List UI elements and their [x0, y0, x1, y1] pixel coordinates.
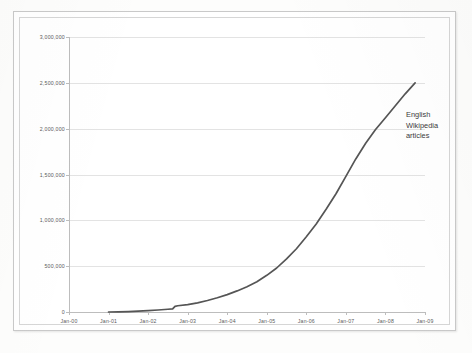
x-tick-label: Jan-02 [140, 318, 157, 324]
x-tick-label: Jan-04 [219, 318, 236, 324]
chart-inner-frame: 0500,0001,000,0001,500,0002,000,0002,500… [19, 17, 450, 325]
y-tick-label: 0 [62, 309, 65, 315]
x-tick-label: Jan-08 [377, 318, 394, 324]
y-tick-label: 1,500,000 [40, 172, 65, 178]
y-tick-label: 1,000,000 [40, 217, 65, 223]
annotation-line: Wikipedia [406, 121, 458, 132]
scanned-page: 0500,0001,000,0001,500,0002,000,0002,500… [0, 0, 472, 353]
chart-outer-frame: 0500,0001,000,0001,500,0002,000,0002,500… [13, 11, 456, 331]
annotation-line: articles [406, 131, 458, 142]
x-tick-label: Jan-00 [60, 318, 77, 324]
x-tick-label: Jan-05 [258, 318, 275, 324]
x-axis-ticks: Jan-00Jan-01Jan-02Jan-03Jan-04Jan-05Jan-… [69, 312, 425, 332]
y-tick-label: 2,500,000 [40, 80, 65, 86]
y-tick-label: 500,000 [44, 263, 65, 269]
annotation-line: English [406, 110, 458, 121]
y-axis-ticks: 0500,0001,000,0001,500,0002,000,0002,500… [20, 37, 65, 312]
x-tick-mark [425, 312, 426, 315]
x-tick-label: Jan-09 [416, 318, 433, 324]
series-english-wikipedia-articles [69, 37, 425, 313]
x-tick-label: Jan-06 [298, 318, 315, 324]
x-tick-label: Jan-01 [100, 318, 117, 324]
x-tick-label: Jan-03 [179, 318, 196, 324]
y-tick-label: 2,000,000 [40, 126, 65, 132]
y-tick-label: 3,000,000 [40, 34, 65, 40]
x-tick-label: Jan-07 [337, 318, 354, 324]
line-chart: 0500,0001,000,0001,500,0002,000,0002,500… [20, 18, 451, 326]
series-annotation-label: EnglishWikipediaarticles [406, 110, 458, 142]
